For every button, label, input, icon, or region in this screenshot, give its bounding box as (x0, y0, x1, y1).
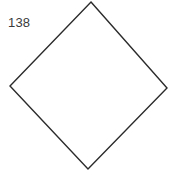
figure-number-label: 138 (8, 16, 30, 30)
diamond-outline-shape (10, 2, 167, 169)
figure-container: 138 (0, 0, 174, 182)
